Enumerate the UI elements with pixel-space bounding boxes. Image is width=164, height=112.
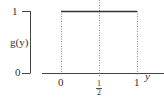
x-tick-half-numerator: 1 [97, 79, 101, 88]
y-tick-label-1: 1 [12, 6, 18, 17]
x-tick-label-1: 1 [134, 77, 140, 88]
chart-canvas [0, 0, 164, 112]
x-axis-label: y [145, 71, 150, 82]
y-tick-label-0: 0 [15, 67, 21, 78]
x-tick-label-half: 1 2 [95, 80, 103, 97]
x-tick-label-0: 0 [58, 77, 64, 88]
x-tick-half-denominator: 2 [97, 88, 101, 97]
y-axis-label: g(y) [10, 37, 28, 48]
